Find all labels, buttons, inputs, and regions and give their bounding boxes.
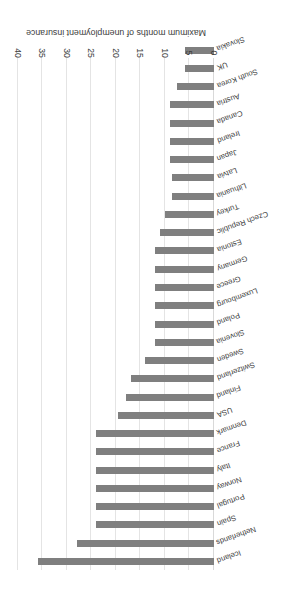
- bar[interactable]: [96, 503, 214, 510]
- bar-row: [18, 223, 214, 241]
- category-tick: Slovenia: [214, 333, 292, 351]
- category-label: Slovakia: [215, 35, 245, 53]
- bar[interactable]: [145, 357, 214, 364]
- category-tick: Finland: [214, 387, 292, 405]
- bar-row: [18, 168, 214, 186]
- bar-row: [18, 113, 214, 131]
- category-label: Italy: [215, 460, 231, 473]
- bar[interactable]: [160, 229, 214, 236]
- bar[interactable]: [155, 266, 214, 273]
- category-label: Spain: [215, 513, 237, 528]
- bar[interactable]: [170, 156, 214, 163]
- category-tick: South Korea: [214, 77, 292, 95]
- bar-row: [18, 205, 214, 223]
- bar-row: [18, 186, 214, 204]
- category-tick: Canada: [214, 113, 292, 131]
- category-tick: Japan: [214, 150, 292, 168]
- bar-row: [18, 132, 214, 150]
- bar-row: [18, 314, 214, 332]
- bar[interactable]: [131, 375, 214, 382]
- bar[interactable]: [96, 485, 214, 492]
- category-tick: Latvia: [214, 168, 292, 186]
- bar[interactable]: [172, 193, 214, 200]
- category-tick: Austria: [214, 95, 292, 113]
- x-axis-title: Maximum months of unemployment insurance: [18, 28, 214, 38]
- bar[interactable]: [96, 467, 214, 474]
- bar-row: [18, 387, 214, 405]
- bar[interactable]: [170, 101, 214, 108]
- bar[interactable]: [38, 558, 214, 565]
- category-label: UK: [215, 60, 228, 72]
- category-axis: IcelandNetherlandsSpainPortugalNorwayIta…: [214, 58, 292, 570]
- bar[interactable]: [118, 412, 214, 419]
- bar[interactable]: [170, 120, 214, 127]
- value-tick-label: 35: [38, 48, 48, 58]
- bar-row: [18, 150, 214, 168]
- bar[interactable]: [155, 339, 214, 346]
- bar-row: [18, 333, 214, 351]
- bar[interactable]: [165, 211, 214, 218]
- bar-rows: [18, 58, 214, 570]
- category-tick: Ireland: [214, 132, 292, 150]
- bar[interactable]: [77, 540, 214, 547]
- value-tick-label: 0: [209, 51, 219, 56]
- bar[interactable]: [96, 448, 214, 455]
- category-tick: Spain: [214, 515, 292, 533]
- category-tick: France: [214, 442, 292, 460]
- category-tick: Lithuania: [214, 186, 292, 204]
- value-tick-label: 15: [136, 48, 146, 58]
- rotated-figure-wrapper: IcelandNetherlandsSpainPortugalNorwayIta…: [0, 0, 292, 598]
- bar[interactable]: [172, 174, 214, 181]
- bar-chart: IcelandNetherlandsSpainPortugalNorwayIta…: [0, 0, 292, 598]
- category-tick: Italy: [214, 460, 292, 478]
- value-tick-label: 10: [160, 48, 170, 58]
- category-label: USA: [215, 405, 233, 419]
- category-tick: Slovakia: [214, 40, 292, 58]
- bar[interactable]: [155, 302, 214, 309]
- value-tick-label: 40: [13, 48, 23, 58]
- category-tick: Luxembourg: [214, 296, 292, 314]
- bar-row: [18, 369, 214, 387]
- category-tick: UK: [214, 59, 292, 77]
- bar-row: [18, 406, 214, 424]
- bar-row: [18, 259, 214, 277]
- bar-row: [18, 95, 214, 113]
- bar[interactable]: [155, 321, 214, 328]
- bar-row: [18, 497, 214, 515]
- bar[interactable]: [126, 394, 214, 401]
- category-tick: Czech Republic: [214, 223, 292, 241]
- bar-row: [18, 59, 214, 77]
- value-tick-label: 20: [111, 48, 121, 58]
- bar-row: [18, 460, 214, 478]
- category-tick: Portugal: [214, 497, 292, 515]
- category-tick: USA: [214, 406, 292, 424]
- value-tick-label: 5: [185, 51, 195, 56]
- category-tick: Netherlands: [214, 533, 292, 551]
- bar-row: [18, 533, 214, 551]
- bar[interactable]: [96, 521, 214, 528]
- value-tick-label: 30: [62, 48, 72, 58]
- bar-row: [18, 552, 214, 570]
- category-tick: Germany: [214, 259, 292, 277]
- bar[interactable]: [155, 284, 214, 291]
- bar[interactable]: [155, 247, 214, 254]
- value-tick-label: 25: [87, 48, 97, 58]
- category-tick: Greece: [214, 278, 292, 296]
- category-tick: Iceland: [214, 552, 292, 570]
- category-tick: Estonia: [214, 241, 292, 259]
- bar-row: [18, 278, 214, 296]
- category-label: Latvia: [215, 166, 237, 181]
- category-tick: Switzerland: [214, 369, 292, 387]
- bar[interactable]: [177, 83, 214, 90]
- category-tick: Denmark: [214, 424, 292, 442]
- bar-row: [18, 442, 214, 460]
- category-tick: Turkey: [214, 205, 292, 223]
- bar-row: [18, 296, 214, 314]
- bar[interactable]: [170, 138, 214, 145]
- bar[interactable]: [185, 65, 214, 72]
- bar[interactable]: [96, 430, 214, 437]
- bar-row: [18, 515, 214, 533]
- category-tick: Norway: [214, 479, 292, 497]
- category-label: Japan: [215, 148, 238, 164]
- category-tick: Sweden: [214, 351, 292, 369]
